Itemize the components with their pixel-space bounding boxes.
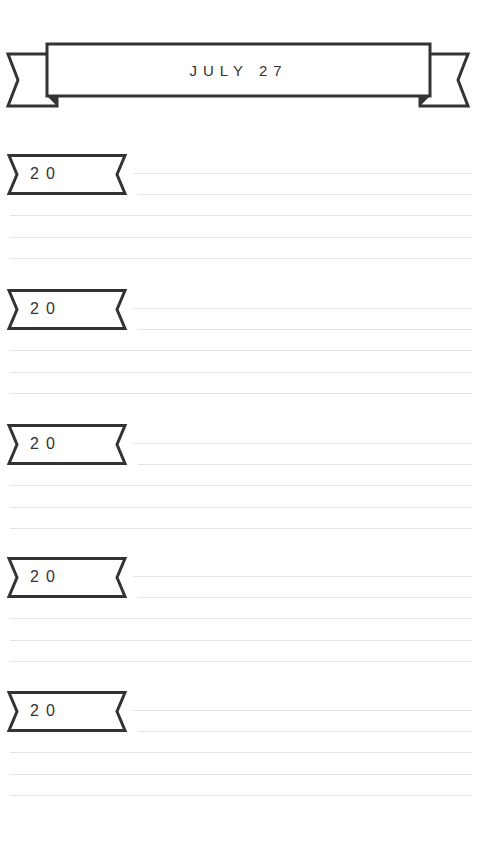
- page-title: JULY 27: [47, 44, 430, 96]
- writing-line[interactable]: [138, 597, 472, 598]
- writing-line[interactable]: [138, 731, 472, 732]
- year-label: 20: [30, 289, 62, 329]
- year-label: 20: [30, 691, 62, 731]
- writing-line[interactable]: [10, 752, 472, 753]
- writing-line[interactable]: [138, 194, 472, 195]
- writing-line[interactable]: [10, 393, 472, 394]
- writing-line[interactable]: [10, 258, 472, 259]
- year-section: 20: [0, 557, 501, 687]
- year-section: 20: [0, 289, 501, 419]
- writing-line[interactable]: [133, 576, 472, 577]
- year-section: 20: [0, 424, 501, 554]
- writing-line[interactable]: [10, 528, 472, 529]
- writing-line[interactable]: [133, 173, 472, 174]
- year-tag-ribbon-icon: [0, 691, 130, 733]
- writing-line[interactable]: [133, 443, 472, 444]
- year-tag-ribbon-icon: [0, 154, 130, 196]
- writing-line[interactable]: [10, 507, 472, 508]
- year-tag-ribbon-icon: [0, 424, 130, 466]
- year-section: 20: [0, 154, 501, 284]
- writing-line[interactable]: [10, 485, 472, 486]
- writing-line[interactable]: [138, 464, 472, 465]
- writing-line[interactable]: [10, 372, 472, 373]
- writing-line[interactable]: [10, 618, 472, 619]
- writing-line[interactable]: [10, 661, 472, 662]
- year-label: 20: [30, 424, 62, 464]
- writing-line[interactable]: [10, 350, 472, 351]
- writing-line[interactable]: [10, 795, 472, 796]
- writing-line[interactable]: [133, 710, 472, 711]
- writing-line[interactable]: [133, 308, 472, 309]
- year-label: 20: [30, 557, 62, 597]
- writing-line[interactable]: [10, 237, 472, 238]
- year-section: 20: [0, 691, 501, 821]
- writing-line[interactable]: [10, 215, 472, 216]
- writing-line[interactable]: [10, 640, 472, 641]
- writing-line[interactable]: [10, 774, 472, 775]
- year-tag-ribbon-icon: [0, 557, 130, 599]
- year-label: 20: [30, 154, 62, 194]
- year-tag-ribbon-icon: [0, 289, 130, 331]
- writing-line[interactable]: [138, 329, 472, 330]
